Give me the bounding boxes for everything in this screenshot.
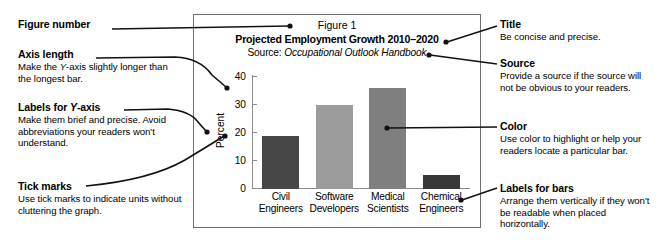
callout-labels-for-y-axis-body: Make them brief and precise. Avoid abbre…	[18, 114, 183, 149]
callout-source-title: Source	[500, 57, 652, 70]
callout-title: Title Be concise and precise.	[500, 18, 650, 43]
bar-chemical-engineers[interactable]	[423, 175, 460, 189]
x-label-line: Developers	[308, 203, 362, 215]
callout-title-body: Be concise and precise.	[500, 31, 650, 43]
callout-axis-length-body: Make the Y-axis slightly longer than the…	[18, 61, 178, 84]
x-label-line: Software	[308, 191, 362, 203]
x-label-line: Chemical	[415, 191, 469, 203]
source-prefix: Source:	[247, 47, 284, 58]
callout-figure-number-title: Figure number	[18, 18, 90, 31]
callout-labels-for-bars-body: Arrange them vertically if they won't be…	[500, 195, 652, 230]
callout-source: Source Provide a source if the source wi…	[500, 57, 652, 93]
callout-color-body: Use color to highlight or help your read…	[500, 133, 645, 156]
figure-number-label: Figure 1	[194, 19, 480, 31]
callout-source-body: Provide a source if the source will not …	[500, 70, 652, 93]
figure-box: Figure 1 Projected Employment Growth 201…	[193, 14, 481, 228]
x-label-line: Civil	[254, 191, 308, 203]
callout-labels-for-bars-title: Labels for bars	[500, 182, 652, 195]
callout-tick-marks-title: Tick marks	[18, 180, 188, 193]
callout-figure-number: Figure number	[18, 18, 90, 31]
y-tick-label-10: 10	[224, 156, 246, 166]
x-label-software-developers: SoftwareDevelopers	[308, 191, 362, 216]
x-label-line: Scientists	[361, 203, 415, 215]
callout-labels-for-y-axis-title: Labels for Y-axis	[18, 101, 183, 114]
callout-tick-marks: Tick marks Use tick marks to indicate un…	[18, 180, 188, 216]
bars-container	[254, 77, 468, 189]
callout-color-title: Color	[500, 120, 645, 133]
x-label-line: Engineers	[415, 203, 469, 215]
y-tick-label-20: 20	[224, 128, 246, 138]
bar-medical-scientists[interactable]	[369, 88, 406, 189]
chart-source: Source: Occupational Outlook Handbook	[194, 47, 480, 58]
y-tick-label-40: 40	[224, 72, 246, 82]
figure-annotation-diagram: Figure number Axis length Make the Y-axi…	[0, 0, 658, 246]
callout-color: Color Use color to highlight or help you…	[500, 120, 645, 156]
x-label-civil-engineers: CivilEngineers	[254, 191, 308, 216]
callout-labels-for-y-axis: Labels for Y-axis Make them brief and pr…	[18, 101, 183, 149]
callout-axis-length: Axis length Make the Y-axis slightly lon…	[18, 48, 178, 84]
x-label-line: Medical	[361, 191, 415, 203]
y-tick-label-30: 30	[224, 100, 246, 110]
x-label-chemical-engineers: ChemicalEngineers	[415, 191, 469, 216]
callout-labels-for-bars: Labels for bars Arrange them vertically …	[500, 182, 652, 230]
chart-title: Projected Employment Growth 2010–2020	[194, 33, 480, 45]
callout-title-title: Title	[500, 18, 650, 31]
x-label-line: Engineers	[254, 203, 308, 215]
bar-software-developers[interactable]	[316, 105, 353, 189]
plot-area: Percent 010203040 CivilEngineersSoftware…	[194, 63, 480, 227]
x-label-medical-scientists: MedicalScientists	[361, 191, 415, 216]
callout-tick-marks-body: Use tick marks to indicate units without…	[18, 193, 188, 216]
bar-civil-engineers[interactable]	[262, 136, 299, 189]
callout-axis-length-title: Axis length	[18, 48, 178, 61]
y-tick-label-0: 0	[224, 184, 246, 194]
source-name: Occupational Outlook Handbook	[284, 47, 426, 58]
